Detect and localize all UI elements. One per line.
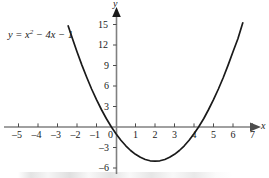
x-tick-label--1: –1 — [90, 130, 100, 140]
equation-rhs: − 4x − 1 — [33, 29, 73, 40]
x-tick-label--2: –2 — [71, 130, 81, 140]
equation-annotation: y = x2 − 4x − 1 — [8, 30, 73, 41]
x-tick-label--5: –5 — [12, 130, 22, 140]
x-axis-label: x — [261, 121, 265, 131]
graph-figure: y = x2 − 4x − 1 x y –5 –4 –3 –2 –1 0 1 2… — [0, 0, 269, 178]
x-tick-label-7: 7 — [250, 130, 255, 140]
x-tick-label-3: 3 — [172, 130, 177, 140]
parabola-curve — [68, 23, 243, 161]
y-tick-label--3: –3 — [99, 143, 109, 153]
y-tick-label-15: 15 — [98, 20, 108, 30]
y-tick-label-12: 12 — [98, 40, 108, 50]
x-tick-label--4: –4 — [32, 130, 42, 140]
x-tick-label-6: 6 — [231, 130, 236, 140]
page-artifact-smudge — [18, 172, 233, 178]
x-tick-label-0: 0 — [108, 130, 113, 140]
y-axis-label: y — [113, 0, 117, 9]
x-tick-label-4: 4 — [192, 130, 197, 140]
y-tick-label-6: 6 — [104, 81, 109, 91]
x-tick-label--3: –3 — [51, 130, 61, 140]
x-tick-label-1: 1 — [133, 130, 138, 140]
equation-lhs: y = x — [8, 29, 30, 40]
y-tick-label-3: 3 — [104, 102, 109, 112]
x-tick-label-5: 5 — [211, 130, 216, 140]
y-tick-label-9: 9 — [104, 61, 109, 71]
plot-area — [0, 0, 269, 178]
x-tick-label-2: 2 — [153, 130, 158, 140]
